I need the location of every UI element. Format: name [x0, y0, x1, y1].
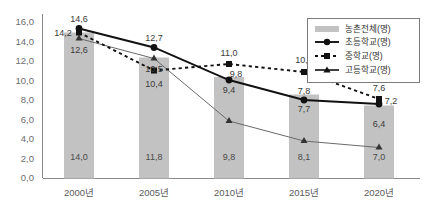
bar-swatch-icon [315, 26, 339, 32]
point-value-label: 12,7 [145, 33, 163, 43]
bar-value-label: 11,8 [146, 152, 163, 162]
square-marker-icon [324, 53, 330, 59]
y-tick-label: 16,0 [16, 16, 35, 27]
legend-item-label: 초등학교(명) [345, 37, 391, 47]
legend-item-label: 농촌전체(명) [345, 24, 391, 34]
legend: 농촌전체(명) 초등학교(명) 중학교(명) 고등학교(명) [308, 19, 420, 83]
x-tick-label-2000: 2000년 [64, 187, 94, 198]
x-tick-label-2005: 2005년 [139, 187, 169, 198]
circle-marker-icon [324, 39, 330, 45]
bar-value-label: 9,8 [223, 152, 236, 162]
x-tick-label-2020: 2020년 [364, 187, 394, 198]
y-axis-tick-labels: 16,0 14,0 12,0 10,0 8,0 6,0 4,0 2,0 0,0 [16, 16, 35, 183]
circle-marker [301, 97, 308, 104]
x-tick-label-2015: 2015년 [289, 187, 319, 198]
circle-marker [151, 44, 158, 51]
point-value-label: 10,5 [145, 64, 163, 74]
bar-value-label: 14,0 [70, 152, 88, 162]
legend-item-label: 고등학교(명) [345, 65, 391, 75]
point-value-label: 7,6 [373, 83, 386, 93]
x-axis-category-labels: 2000년 2005년 2010년 2015년 2020년 [64, 187, 394, 198]
y-tick-label: 0,0 [21, 172, 34, 183]
bar-value-labels: 14,0 11,8 9,8 8,1 7,0 [70, 152, 385, 162]
chart-container: 16,0 14,0 12,0 10,0 8,0 6,0 4,0 2,0 0,0 … [0, 0, 427, 213]
point-value-label: 6,4 [373, 119, 386, 129]
circle-marker [376, 101, 383, 108]
point-value-label: 11,0 [221, 48, 238, 58]
point-value-label: 14,2 [54, 28, 72, 38]
bar-value-label: 8,1 [298, 152, 311, 162]
point-value-label: 9,8 [230, 69, 243, 79]
y-tick-label: 2,0 [21, 153, 34, 164]
point-value-label: 9,4 [223, 85, 236, 95]
square-marker [226, 61, 232, 67]
point-value-label: 12,6 [70, 45, 88, 55]
bar-2020 [364, 106, 394, 179]
chart-canvas: 16,0 14,0 12,0 10,0 8,0 6,0 4,0 2,0 0,0 … [0, 0, 427, 213]
point-value-label: 7,2 [385, 96, 398, 106]
point-value-label: 7,8 [298, 86, 311, 96]
square-marker [301, 69, 307, 75]
y-tick-label: 8,0 [21, 94, 34, 105]
point-value-label: 7,7 [298, 104, 311, 114]
y-tick-label: 14,0 [16, 36, 35, 47]
point-value-label: 14,6 [70, 14, 88, 24]
y-tick-label: 4,0 [21, 133, 34, 144]
circle-marker [76, 25, 83, 32]
y-tick-label: 10,0 [16, 75, 35, 86]
legend-item-label: 중학교(명) [345, 51, 383, 61]
x-tick-label-2010: 2010년 [214, 187, 244, 198]
point-value-label: 10,4 [145, 79, 163, 89]
bar-value-label: 7,0 [373, 152, 386, 162]
y-tick-label: 6,0 [21, 114, 34, 125]
y-tick-label: 12,0 [16, 55, 35, 66]
